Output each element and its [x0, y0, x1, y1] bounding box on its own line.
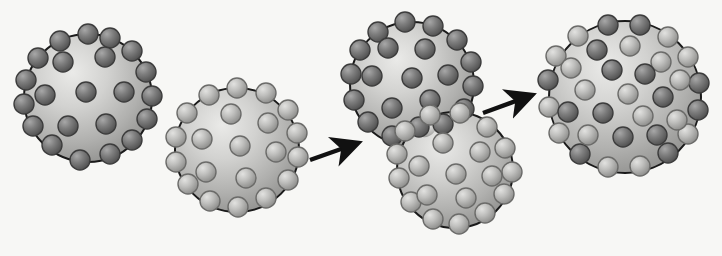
figure-canvas	[0, 0, 722, 256]
vesicle-fusion-diagram	[0, 0, 722, 256]
